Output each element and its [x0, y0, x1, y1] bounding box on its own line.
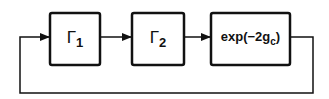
label-gamma2: Γ2 — [132, 28, 184, 50]
label-exp: exp(−2gc) — [211, 29, 290, 47]
label-gamma1: Γ1 — [50, 28, 100, 50]
